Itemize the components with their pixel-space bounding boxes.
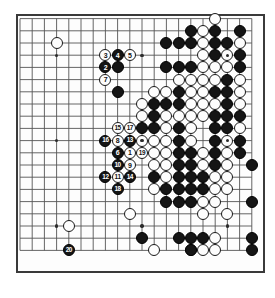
black-stone xyxy=(234,49,246,61)
star-point xyxy=(140,139,143,142)
white-stone xyxy=(197,159,209,171)
black-stone xyxy=(173,86,185,98)
black-stone xyxy=(160,196,172,208)
black-stone xyxy=(185,196,197,208)
white-stone xyxy=(197,147,209,159)
white-stone xyxy=(185,74,197,86)
black-stone xyxy=(185,25,197,37)
move-15-white: 15 xyxy=(112,122,124,134)
white-stone xyxy=(185,110,197,122)
white-stone xyxy=(197,208,209,220)
black-stone xyxy=(209,147,221,159)
white-stone xyxy=(51,37,63,49)
black-stone xyxy=(173,183,185,195)
star-point xyxy=(55,224,58,227)
move-14-black: 14 xyxy=(124,171,136,183)
star-point xyxy=(226,54,229,57)
move-4-black: 4 xyxy=(112,49,124,61)
white-stone xyxy=(185,86,197,98)
star-point xyxy=(226,224,229,227)
black-stone xyxy=(234,61,246,73)
black-stone xyxy=(173,122,185,134)
move-10-black: 10 xyxy=(112,159,124,171)
black-stone xyxy=(185,171,197,183)
white-stone xyxy=(185,135,197,147)
white-stone xyxy=(136,98,148,110)
black-stone xyxy=(185,159,197,171)
black-stone xyxy=(234,110,246,122)
go-diagram: 1234567891011121314151617181920 xyxy=(0,0,275,298)
white-stone xyxy=(234,86,246,98)
white-stone xyxy=(209,13,221,25)
white-stone xyxy=(124,208,136,220)
black-stone xyxy=(246,159,258,171)
black-stone xyxy=(246,232,258,244)
black-stone xyxy=(112,61,124,73)
move-9-white: 9 xyxy=(124,159,136,171)
white-stone xyxy=(173,110,185,122)
black-stone xyxy=(173,196,185,208)
white-stone xyxy=(185,98,197,110)
move-13-black: 13 xyxy=(124,135,136,147)
move-8-white: 8 xyxy=(112,135,124,147)
move-11-white: 11 xyxy=(112,171,124,183)
black-stone xyxy=(234,135,246,147)
white-stone xyxy=(234,122,246,134)
star-point xyxy=(140,224,143,227)
black-stone xyxy=(221,74,233,86)
move-19-white: 19 xyxy=(136,147,148,159)
black-stone xyxy=(246,196,258,208)
white-stone xyxy=(148,86,160,98)
black-stone xyxy=(185,37,197,49)
black-stone xyxy=(173,61,185,73)
white-stone xyxy=(234,98,246,110)
white-stone xyxy=(197,98,209,110)
black-stone xyxy=(234,25,246,37)
black-stone xyxy=(173,159,185,171)
white-stone xyxy=(234,74,246,86)
black-stone xyxy=(173,37,185,49)
move-6-black: 6 xyxy=(112,147,124,159)
white-stone xyxy=(234,37,246,49)
white-stone xyxy=(209,196,221,208)
white-stone xyxy=(63,220,75,232)
black-stone xyxy=(185,147,197,159)
white-stone xyxy=(160,135,172,147)
black-stone xyxy=(173,147,185,159)
white-stone xyxy=(148,135,160,147)
white-stone xyxy=(197,196,209,208)
move-1-white: 1 xyxy=(124,147,136,159)
black-stone xyxy=(185,232,197,244)
move-18-black: 18 xyxy=(112,183,124,195)
white-stone xyxy=(197,74,209,86)
black-stone xyxy=(112,86,124,98)
white-stone xyxy=(148,147,160,159)
black-stone xyxy=(173,171,185,183)
white-stone xyxy=(173,74,185,86)
black-stone xyxy=(209,25,221,37)
move-7-white: 7 xyxy=(99,74,111,86)
black-stone xyxy=(173,98,185,110)
black-stone xyxy=(173,232,185,244)
white-stone xyxy=(209,74,221,86)
move-5-white: 5 xyxy=(124,49,136,61)
white-stone xyxy=(197,37,209,49)
black-stone xyxy=(173,135,185,147)
black-stone xyxy=(209,86,221,98)
black-stone xyxy=(234,147,246,159)
white-stone xyxy=(197,25,209,37)
black-stone xyxy=(209,135,221,147)
white-stone xyxy=(197,86,209,98)
star-point xyxy=(140,54,143,57)
move-16-black: 16 xyxy=(99,135,111,147)
